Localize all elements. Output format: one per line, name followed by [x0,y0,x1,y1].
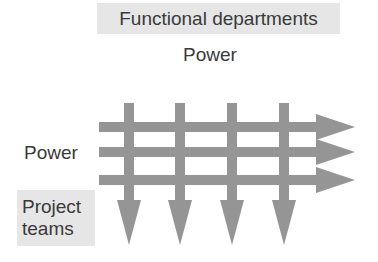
project-teams-text: Project teams [22,196,81,240]
power-label-left: Power [24,142,78,164]
project-teams-label: Project teams [17,190,95,246]
